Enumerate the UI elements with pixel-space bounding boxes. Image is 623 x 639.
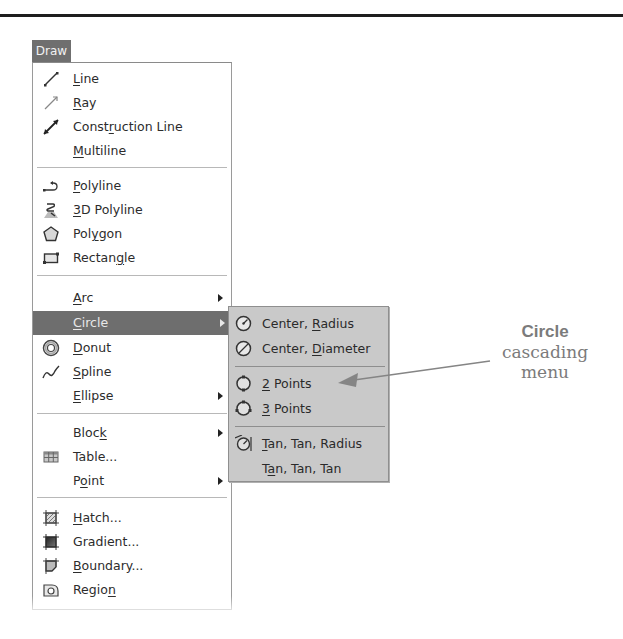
callout-title: Circle (480, 322, 610, 342)
callout-arrow (0, 0, 623, 639)
callout-label: Circle cascading menu (480, 322, 610, 382)
callout-line2: cascading (480, 342, 610, 362)
callout-line3: menu (480, 362, 610, 382)
